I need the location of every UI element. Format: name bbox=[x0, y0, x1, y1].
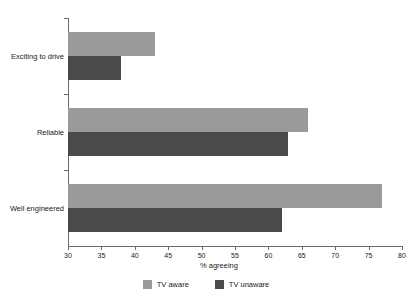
bar bbox=[68, 32, 155, 56]
x-axis-title: % agreeing bbox=[0, 261, 412, 270]
x-axis-tick bbox=[101, 246, 102, 250]
bar-chart: 3035404550556065707580 Exciting to drive… bbox=[0, 0, 412, 300]
x-axis-tick bbox=[168, 246, 169, 250]
x-axis-tick bbox=[135, 246, 136, 250]
x-axis-title-text: % agreeing bbox=[200, 261, 238, 270]
x-axis-tick-label: 70 bbox=[331, 252, 339, 259]
x-axis-tick-label: 45 bbox=[164, 252, 172, 259]
x-axis-tick-label: 30 bbox=[64, 252, 72, 259]
legend-label-tv-aware: TV aware bbox=[157, 280, 189, 289]
x-axis-tick bbox=[235, 246, 236, 250]
x-axis-tick bbox=[402, 246, 403, 250]
category-label: Exciting to drive bbox=[11, 52, 64, 61]
legend-label-tv-unaware: TV unaware bbox=[229, 280, 269, 289]
plot-area bbox=[68, 18, 402, 246]
x-axis-tick-label: 55 bbox=[231, 252, 239, 259]
x-axis-tick-label: 65 bbox=[298, 252, 306, 259]
bar bbox=[68, 184, 382, 208]
x-axis-tick bbox=[268, 246, 269, 250]
legend-item-tv-unaware[interactable]: TV unaware bbox=[215, 280, 269, 289]
legend-swatch-tv-unaware bbox=[215, 280, 224, 289]
chart-legend: TV aware TV unaware bbox=[0, 280, 412, 289]
bar bbox=[68, 56, 121, 80]
x-axis-tick bbox=[369, 246, 370, 250]
bar bbox=[68, 208, 282, 232]
x-axis-tick-label: 75 bbox=[365, 252, 373, 259]
legend-item-tv-aware[interactable]: TV aware bbox=[143, 280, 189, 289]
x-axis-tick-label: 80 bbox=[398, 252, 406, 259]
x-axis-tick bbox=[335, 246, 336, 250]
x-axis-tick-label: 60 bbox=[264, 252, 272, 259]
x-axis-tick-label: 35 bbox=[97, 252, 105, 259]
x-axis-tick bbox=[302, 246, 303, 250]
x-axis-tick bbox=[202, 246, 203, 250]
x-axis-tick-label: 40 bbox=[131, 252, 139, 259]
category-label: Reliable bbox=[37, 128, 64, 137]
legend-swatch-tv-aware bbox=[143, 280, 152, 289]
category-label: Well engineered bbox=[10, 204, 64, 213]
x-axis-tick bbox=[68, 246, 69, 250]
x-axis-tick-label: 50 bbox=[198, 252, 206, 259]
bar bbox=[68, 108, 308, 132]
bar bbox=[68, 132, 288, 156]
